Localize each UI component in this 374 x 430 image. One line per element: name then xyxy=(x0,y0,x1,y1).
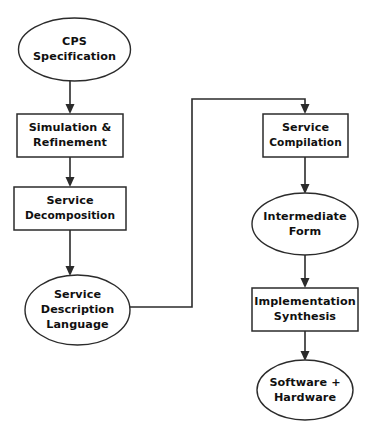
node-service-compilation-line-2: Compilation xyxy=(269,136,342,148)
node-simulation-refinement-line-1: Simulation & xyxy=(29,121,112,134)
node-simulation-refinement[interactable]: Simulation & Refinement xyxy=(17,114,123,157)
node-software-hardware-line-2: Hardware xyxy=(274,391,337,404)
edge-intermediate-to-implementation xyxy=(301,255,310,288)
edge-simulation-to-decomposition xyxy=(66,157,75,187)
node-service-description-language-line-1: Service xyxy=(54,288,102,301)
diagram-canvas: CPS Specification Simulation & Refinemen… xyxy=(0,0,374,430)
node-service-compilation[interactable]: Service Compilation xyxy=(263,114,348,157)
node-intermediate-form[interactable]: Intermediate Form xyxy=(252,193,358,255)
node-service-description-language[interactable]: Service Description Language xyxy=(25,275,130,345)
edge-implementation-to-software-hardware xyxy=(301,331,310,361)
node-implementation-synthesis[interactable]: Implementation Synthesis xyxy=(252,288,358,331)
node-implementation-synthesis-line-1: Implementation xyxy=(254,295,356,308)
edge-cps-to-simulation xyxy=(66,81,75,114)
node-cps-specification[interactable]: CPS Specification xyxy=(19,18,131,81)
edge-decomposition-to-sdl xyxy=(66,230,75,276)
flowchart: CPS Specification Simulation & Refinemen… xyxy=(0,0,374,430)
node-cps-specification-line-1: CPS xyxy=(62,35,87,48)
node-intermediate-form-line-2: Form xyxy=(289,225,321,238)
node-simulation-refinement-line-2: Refinement xyxy=(33,136,108,149)
node-intermediate-form-line-1: Intermediate xyxy=(263,210,347,223)
node-cps-specification-line-2: Specification xyxy=(33,50,116,63)
node-software-hardware[interactable]: Software + Hardware xyxy=(257,360,353,420)
edge-compilation-to-intermediate xyxy=(301,157,310,194)
node-service-decomposition-line-2: Decomposition xyxy=(25,209,115,221)
node-service-decomposition[interactable]: Service Decomposition xyxy=(14,187,126,230)
node-service-description-language-line-3: Language xyxy=(46,318,109,331)
node-service-description-language-line-2: Description xyxy=(41,303,114,316)
node-service-compilation-line-1: Service xyxy=(282,121,330,134)
node-implementation-synthesis-line-2: Synthesis xyxy=(274,310,337,323)
node-software-hardware-line-1: Software + xyxy=(269,376,340,389)
node-service-decomposition-line-1: Service xyxy=(46,194,94,207)
